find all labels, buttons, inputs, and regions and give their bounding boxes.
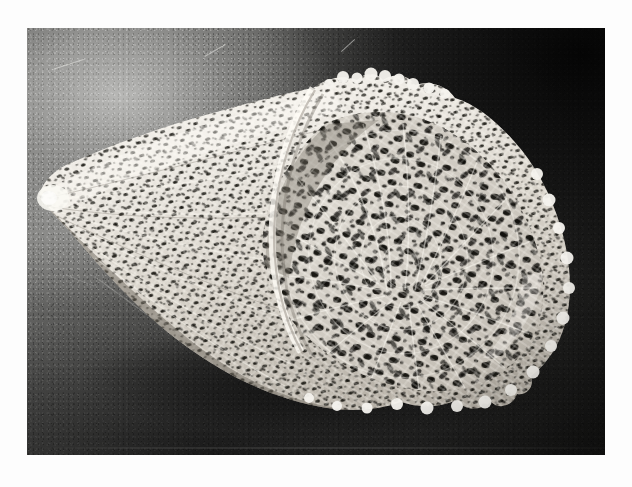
sponge-cone-specimen	[27, 28, 605, 455]
page-margin-bottom	[0, 455, 632, 487]
page	[0, 0, 632, 487]
photograph	[27, 28, 605, 455]
page-margin-left	[0, 0, 27, 487]
page-margin-right	[605, 0, 632, 487]
page-margin-top	[0, 0, 632, 28]
